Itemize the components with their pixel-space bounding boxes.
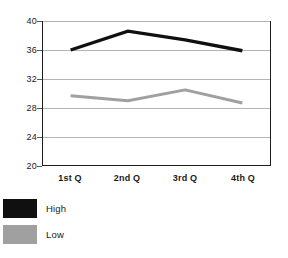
gridline-36 xyxy=(43,50,270,51)
gridline-24 xyxy=(43,137,270,138)
y-axis-label-32: 32 xyxy=(0,75,37,84)
y-axis-label-20: 20 xyxy=(0,162,37,171)
legend-swatch-high xyxy=(3,199,37,218)
legend-swatch-low xyxy=(3,225,37,244)
legend-label-low: Low xyxy=(46,229,64,240)
y-axis-label-28: 28 xyxy=(0,104,37,113)
y-tick-mark-40 xyxy=(37,21,42,22)
x-axis-label-4: 4th Q xyxy=(213,173,273,183)
y-axis-label-24: 24 xyxy=(0,133,37,142)
x-axis-label-2: 2nd Q xyxy=(97,173,157,183)
y-tick-mark-36 xyxy=(37,50,42,51)
y-tick-mark-32 xyxy=(37,79,42,80)
x-axis-label-1: 1st Q xyxy=(40,173,100,183)
legend-item-high: High xyxy=(3,199,183,225)
y-tick-mark-20 xyxy=(37,166,42,167)
legend-label-high: High xyxy=(46,203,66,214)
gridline-40 xyxy=(43,21,270,22)
legend-item-low: Low xyxy=(3,225,183,251)
y-tick-mark-28 xyxy=(37,108,42,109)
gridline-32 xyxy=(43,79,270,80)
x-axis-label-3: 3rd Q xyxy=(155,173,215,183)
chart-legend: High Low xyxy=(3,199,183,251)
gridline-28 xyxy=(43,108,270,109)
line-chart: 40 36 32 28 24 20 1st Q 2nd Q 3rd Q 4th … xyxy=(0,0,288,258)
y-axis-label-36: 36 xyxy=(0,46,37,55)
plot-area xyxy=(42,21,271,166)
y-axis-label-40: 40 xyxy=(0,17,37,26)
y-tick-mark-24 xyxy=(37,137,42,138)
